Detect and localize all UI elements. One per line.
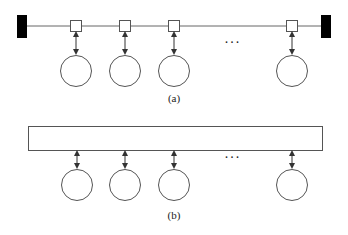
panel-a bbox=[17, 15, 331, 87]
ellipsis-b: ... bbox=[225, 146, 242, 162]
panel-b-caption: (b) bbox=[168, 209, 181, 221]
station-node bbox=[62, 170, 93, 201]
panel-b bbox=[29, 127, 323, 201]
right-terminator bbox=[321, 15, 331, 38]
station-node bbox=[110, 56, 141, 87]
panel-a-caption: (a) bbox=[168, 92, 180, 104]
station-node bbox=[110, 170, 141, 201]
shared-medium-bar bbox=[29, 127, 323, 151]
ellipsis-a: ... bbox=[225, 31, 242, 47]
tap-box bbox=[120, 21, 131, 32]
station-node bbox=[61, 56, 92, 87]
station-node bbox=[277, 56, 308, 87]
station-node bbox=[159, 56, 190, 87]
tap-box bbox=[71, 21, 82, 32]
station-node bbox=[159, 170, 190, 201]
tap-box bbox=[287, 21, 298, 32]
station-node bbox=[277, 170, 308, 201]
left-terminator bbox=[17, 15, 27, 38]
diagram-canvas bbox=[0, 0, 348, 235]
tap-box bbox=[169, 21, 180, 32]
